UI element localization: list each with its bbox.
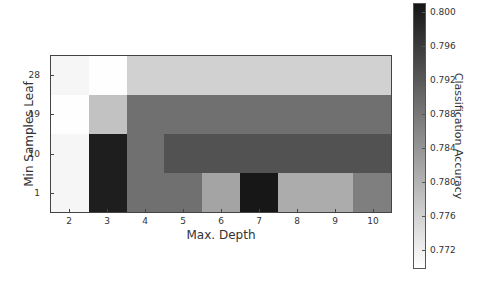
colorbar-tick-mark bbox=[422, 216, 426, 217]
heatmap-cell bbox=[353, 56, 391, 95]
colorbar-tick-label: 0.800 bbox=[430, 7, 456, 17]
heatmap-grid bbox=[51, 56, 391, 212]
heatmap-cell bbox=[202, 95, 240, 134]
heatmap-cell bbox=[315, 95, 353, 134]
heatmap-plot-area bbox=[50, 55, 392, 213]
heatmap-cell bbox=[127, 95, 165, 134]
x-tick-mark bbox=[335, 209, 336, 213]
colorbar-tick-mark bbox=[422, 12, 426, 13]
colorbar-tick-mark bbox=[422, 250, 426, 251]
x-tick-label: 7 bbox=[256, 216, 262, 226]
colorbar-tick-label: 0.776 bbox=[430, 211, 456, 221]
heatmap-cell bbox=[202, 173, 240, 212]
heatmap-cell bbox=[315, 56, 353, 95]
x-tick-label: 10 bbox=[367, 216, 378, 226]
heatmap-cell bbox=[315, 134, 353, 173]
x-tick-label: 5 bbox=[180, 216, 186, 226]
heatmap-cell bbox=[278, 134, 316, 173]
heatmap-cell bbox=[202, 134, 240, 173]
heatmap-cell bbox=[51, 134, 89, 173]
y-tick-mark bbox=[50, 154, 54, 155]
x-tick-mark bbox=[69, 209, 70, 213]
x-tick-mark bbox=[259, 209, 260, 213]
colorbar-tick-mark bbox=[422, 182, 426, 183]
heatmap-cell bbox=[240, 134, 278, 173]
heatmap-cell bbox=[240, 95, 278, 134]
heatmap-cell bbox=[164, 95, 202, 134]
heatmap-cell bbox=[89, 173, 127, 212]
heatmap-cell bbox=[202, 56, 240, 95]
x-tick-mark bbox=[183, 209, 184, 213]
y-tick-label: 1 bbox=[10, 188, 40, 198]
heatmap-cell bbox=[278, 173, 316, 212]
x-tick-mark bbox=[297, 209, 298, 213]
heatmap-cell bbox=[278, 56, 316, 95]
colorbar-tick-mark bbox=[422, 114, 426, 115]
heatmap-cell bbox=[353, 95, 391, 134]
colorbar-tick-mark bbox=[422, 80, 426, 81]
heatmap-cell bbox=[353, 173, 391, 212]
x-tick-label: 4 bbox=[142, 216, 148, 226]
heatmap-cell bbox=[51, 173, 89, 212]
heatmap-cell bbox=[278, 95, 316, 134]
y-tick-label: 28 bbox=[10, 70, 40, 80]
y-tick-mark bbox=[50, 193, 54, 194]
heatmap-cell bbox=[240, 173, 278, 212]
colorbar-tick-label: 0.796 bbox=[430, 41, 456, 51]
colorbar-label: Classification Accuracy bbox=[452, 73, 465, 200]
heatmap-cell bbox=[164, 56, 202, 95]
heatmap-cell bbox=[315, 173, 353, 212]
heatmap-cell bbox=[240, 56, 278, 95]
x-tick-mark bbox=[107, 209, 108, 213]
heatmap-cell bbox=[164, 134, 202, 173]
x-tick-label: 9 bbox=[332, 216, 338, 226]
heatmap-cell bbox=[353, 134, 391, 173]
x-axis-label: Max. Depth bbox=[187, 228, 256, 242]
x-tick-label: 8 bbox=[294, 216, 300, 226]
heatmap-cell bbox=[51, 56, 89, 95]
heatmap-cell bbox=[127, 134, 165, 173]
heatmap-cell bbox=[89, 95, 127, 134]
x-tick-label: 3 bbox=[104, 216, 110, 226]
heatmap-cell bbox=[89, 134, 127, 173]
colorbar bbox=[413, 3, 426, 269]
colorbar-tick-mark bbox=[422, 148, 426, 149]
x-tick-label: 6 bbox=[218, 216, 224, 226]
colorbar-tick-label: 0.772 bbox=[430, 245, 456, 255]
x-tick-label: 2 bbox=[66, 216, 72, 226]
colorbar-tick-mark bbox=[422, 46, 426, 47]
heatmap-cell bbox=[51, 95, 89, 134]
x-tick-mark bbox=[373, 209, 374, 213]
x-tick-mark bbox=[145, 209, 146, 213]
heatmap-cell bbox=[127, 173, 165, 212]
heatmap-cell bbox=[89, 56, 127, 95]
y-tick-mark bbox=[50, 114, 54, 115]
y-axis-label: Min Samples Leaf bbox=[22, 81, 36, 187]
y-tick-mark bbox=[50, 75, 54, 76]
heatmap-cell bbox=[164, 173, 202, 212]
x-tick-mark bbox=[221, 209, 222, 213]
heatmap-cell bbox=[127, 56, 165, 95]
